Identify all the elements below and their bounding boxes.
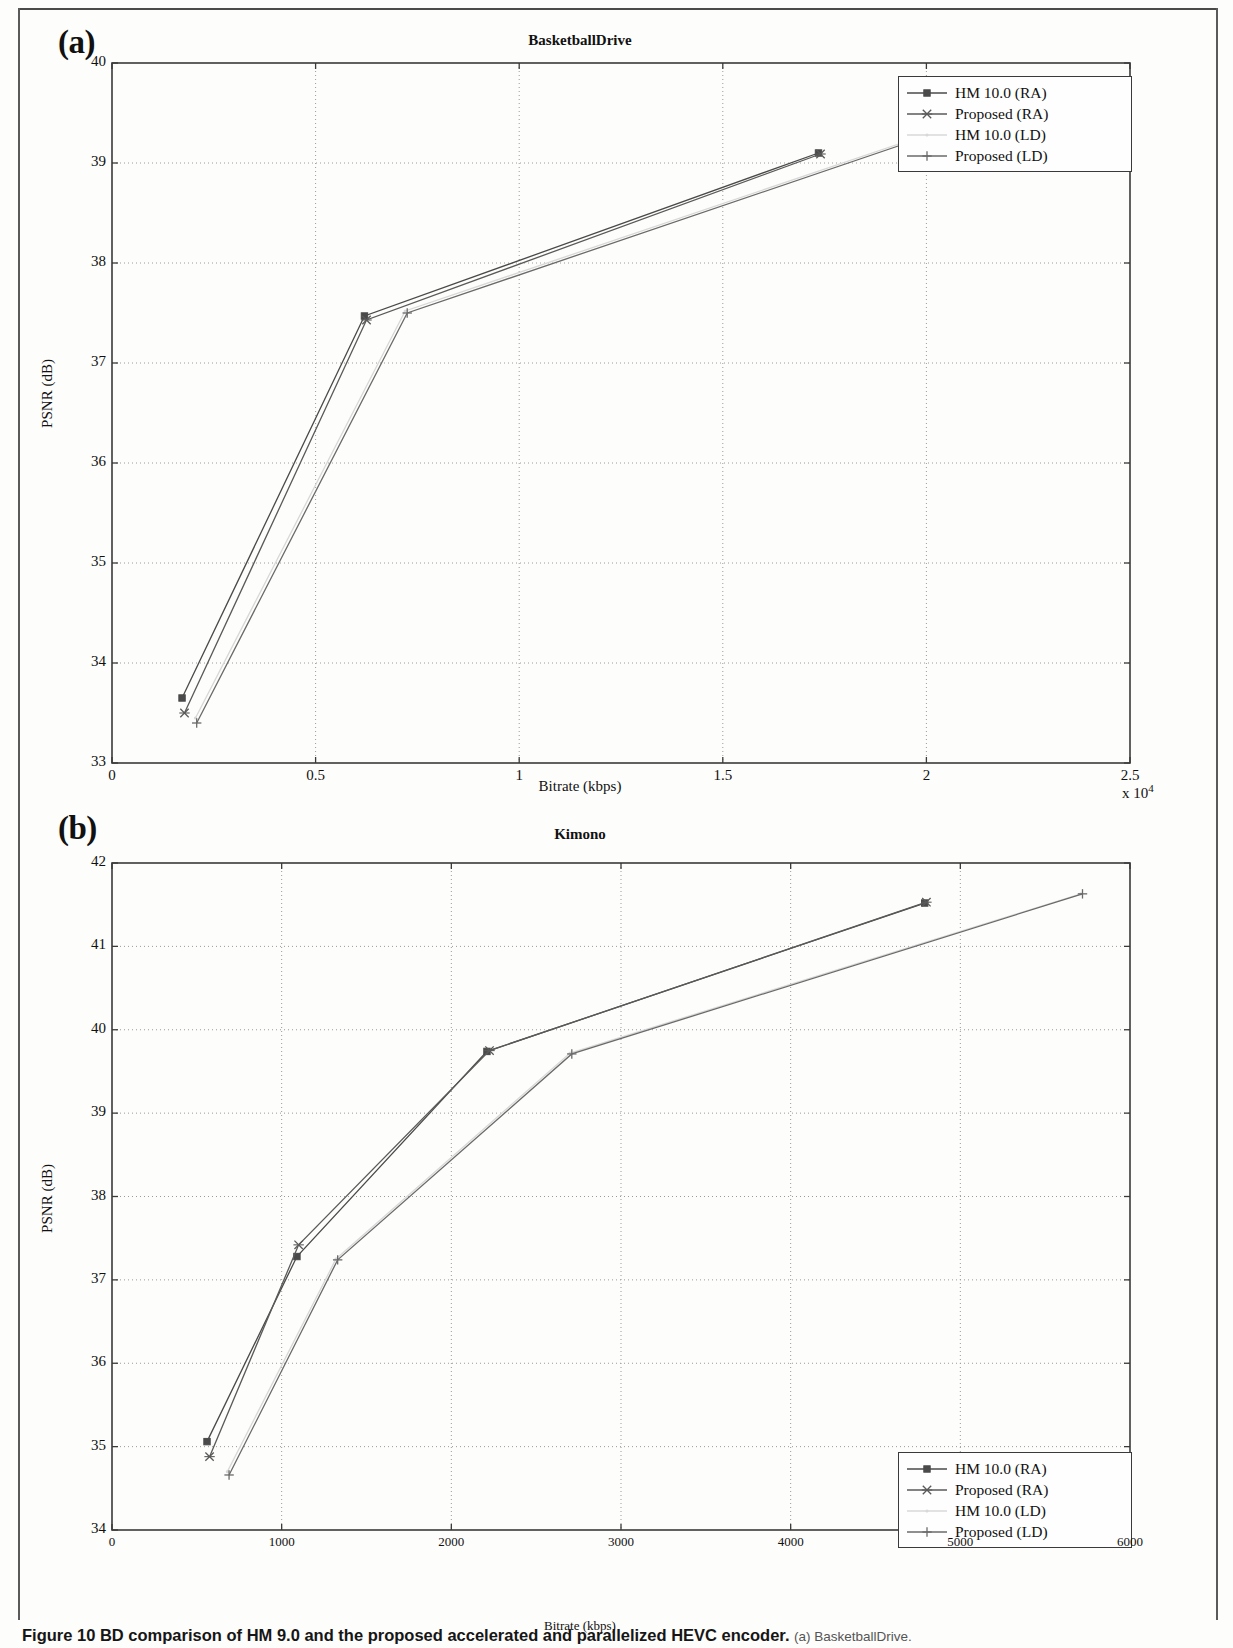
series-2 bbox=[194, 123, 957, 719]
y-tick-label: 41 bbox=[66, 936, 106, 953]
legend-swatch-icon bbox=[905, 1461, 949, 1477]
caption-tail: (a) BasketballDrive. bbox=[794, 1629, 912, 1644]
x-tick-label: 0.5 bbox=[276, 767, 356, 784]
x-tick-label: 2.5 bbox=[1090, 767, 1170, 784]
legend-item[interactable]: HM 10.0 (LD) bbox=[905, 124, 1123, 145]
x-tick-label: 1000 bbox=[242, 1534, 322, 1550]
y-tick-label: 37 bbox=[66, 353, 106, 370]
y-tick-label: 38 bbox=[66, 1187, 106, 1204]
legend-swatch-icon bbox=[905, 106, 949, 122]
y-tick-label: 38 bbox=[66, 253, 106, 270]
y-tick-label: 36 bbox=[66, 453, 106, 470]
legend-a: HM 10.0 (RA)Proposed (RA)HM 10.0 (LD)Pro… bbox=[898, 76, 1132, 172]
legend-label: HM 10.0 (RA) bbox=[955, 84, 1047, 102]
series-1 bbox=[204, 898, 931, 1461]
caption-main: BD comparison of HM 9.0 and the proposed… bbox=[100, 1626, 790, 1644]
y-tick-label: 42 bbox=[66, 853, 106, 870]
x-tick-label: 5000 bbox=[920, 1534, 1000, 1550]
figure-caption: Figure 10 BD comparison of HM 9.0 and th… bbox=[22, 1626, 912, 1645]
legend-item[interactable]: Proposed (LD) bbox=[905, 145, 1123, 166]
legend-label: Proposed (RA) bbox=[955, 105, 1048, 123]
legend-item[interactable]: Proposed (RA) bbox=[905, 1479, 1123, 1500]
x-tick-label: 2 bbox=[886, 767, 966, 784]
x-tick-label: 1 bbox=[479, 767, 559, 784]
page-top-rule bbox=[18, 8, 1218, 10]
series-2 bbox=[226, 892, 1083, 1473]
legend-label: HM 10.0 (LD) bbox=[955, 126, 1046, 144]
panel-letter-b: (b) bbox=[58, 810, 97, 847]
y-tick-label: 39 bbox=[66, 153, 106, 170]
legend-label: Proposed (RA) bbox=[955, 1481, 1048, 1499]
x-tick-label: 1.5 bbox=[683, 767, 763, 784]
gridlines bbox=[112, 863, 1130, 1530]
figure-page: (a) BasketballDrive PSNR (dB) Bitrate (k… bbox=[0, 0, 1233, 1648]
legend-swatch-icon bbox=[905, 1503, 949, 1519]
legend-item[interactable]: HM 10.0 (RA) bbox=[905, 82, 1123, 103]
series-3 bbox=[224, 889, 1087, 1480]
legend-label: HM 10.0 (LD) bbox=[955, 1502, 1046, 1520]
series-0 bbox=[179, 150, 822, 701]
legend-item[interactable]: Proposed (RA) bbox=[905, 103, 1123, 124]
y-tick-label: 34 bbox=[66, 653, 106, 670]
x-tick-label: 2000 bbox=[411, 1534, 491, 1550]
page-right-rule bbox=[1216, 8, 1218, 1620]
legend-item[interactable]: HM 10.0 (RA) bbox=[905, 1458, 1123, 1479]
y-tick-label: 37 bbox=[66, 1270, 106, 1287]
legend-item[interactable]: HM 10.0 (LD) bbox=[905, 1500, 1123, 1521]
x-tick-label: 3000 bbox=[581, 1534, 661, 1550]
legend-swatch-icon bbox=[905, 127, 949, 143]
chart-title-b: Kimono bbox=[110, 826, 1050, 843]
x-tick-label: 6000 bbox=[1090, 1534, 1170, 1550]
y-tick-label: 35 bbox=[66, 553, 106, 570]
y-tick-label: 40 bbox=[66, 1020, 106, 1037]
y-tick-label: 36 bbox=[66, 1353, 106, 1370]
legend-label: HM 10.0 (RA) bbox=[955, 1460, 1047, 1478]
x-tick-label: 4000 bbox=[751, 1534, 831, 1550]
series-1 bbox=[179, 150, 825, 717]
series-3 bbox=[192, 121, 962, 727]
y-tick-label: 40 bbox=[66, 53, 106, 70]
legend-swatch-icon bbox=[905, 1482, 949, 1498]
page-left-rule bbox=[18, 8, 20, 1620]
y-tick-label: 34 bbox=[66, 1520, 106, 1537]
legend-label: Proposed (LD) bbox=[955, 147, 1048, 165]
y-tick-label: 33 bbox=[66, 753, 106, 770]
y-tick-label: 39 bbox=[66, 1103, 106, 1120]
y-tick-label: 35 bbox=[66, 1437, 106, 1454]
legend-swatch-icon bbox=[905, 85, 949, 101]
caption-lead: Figure 10 bbox=[22, 1626, 95, 1644]
legend-swatch-icon bbox=[905, 148, 949, 164]
